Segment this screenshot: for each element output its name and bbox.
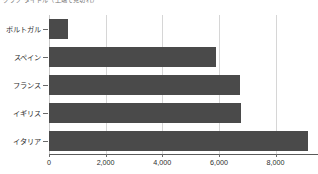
x-axis-label-group: 02,0004,0006,0008,000 — [0, 157, 318, 171]
x-tick-mark-2000 — [106, 154, 107, 157]
bar — [49, 19, 68, 39]
y-tick-mark — [43, 29, 48, 30]
bar — [49, 75, 240, 95]
x-axis-tick-label: 2,000 — [97, 157, 115, 169]
x-tick-mark-4000 — [162, 154, 163, 157]
y-axis-category-label: イタリア — [13, 137, 41, 146]
bar-row — [49, 131, 318, 151]
y-axis-category-label: イギリス — [13, 109, 41, 118]
bar-row — [49, 47, 318, 67]
x-tick-mark-6000 — [219, 154, 220, 157]
y-axis-category-label: フランス — [13, 81, 41, 90]
x-axis-line — [49, 154, 318, 155]
y-tick-mark — [43, 85, 48, 86]
bar-row — [49, 19, 318, 39]
plot-area — [49, 15, 318, 155]
bar — [49, 103, 241, 123]
y-axis-label-group: ポルトガルスペインフランスイギリスイタリア — [0, 15, 41, 155]
x-tick-mark-8000 — [276, 154, 277, 157]
bar-row — [49, 75, 318, 95]
y-tick-mark — [43, 113, 48, 114]
x-axis-tick-label: 4,000 — [153, 157, 171, 169]
y-tick-mark — [43, 141, 48, 142]
x-axis-tick-label: 6,000 — [210, 157, 228, 169]
y-axis-category-label: ポルトガル — [6, 25, 41, 34]
y-axis-category-label: スペイン — [14, 53, 41, 62]
bar — [49, 131, 308, 151]
bar — [49, 47, 216, 67]
bar-row — [49, 103, 318, 123]
x-axis-tick-label: 0 — [47, 157, 51, 169]
y-tick-mark — [43, 57, 48, 58]
x-tick-mark-0 — [49, 154, 50, 157]
x-axis-tick-label: 8,000 — [267, 157, 285, 169]
chart-title: グラフ タイトル（上端で見切れ） — [3, 0, 233, 4]
bar-chart-figure: グラフ タイトル（上端で見切れ） ポルトガルスペインフランスイギリスイタリア 0… — [0, 0, 318, 174]
